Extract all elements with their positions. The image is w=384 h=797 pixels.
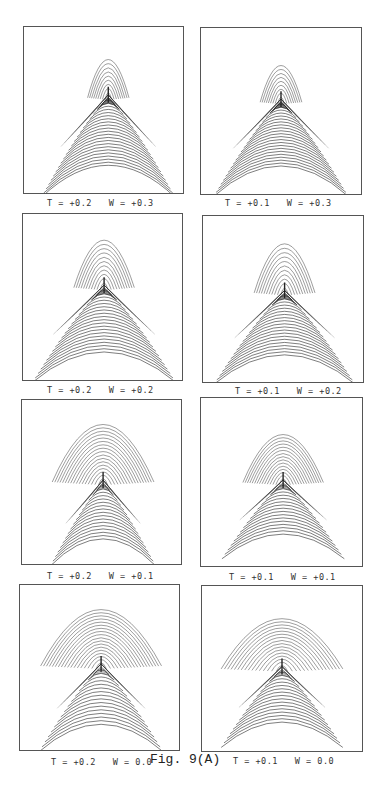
curve-family-plot [23,214,182,380]
panel-label: T = +0.2 W = +0.2 [47,385,154,395]
lower-wavefront-curve [240,515,326,533]
ray-line [66,480,103,523]
panel-label: T = +0.1 W = +0.1 [229,572,336,582]
lower-wavefront-curve [74,125,142,142]
plot-panel-6 [200,397,363,567]
lower-wavefront-curve [46,336,161,360]
figure-caption: Fig. 9(A) [150,752,220,767]
lower-wavefront-curve [58,703,145,722]
lower-wavefront-curve [55,532,151,556]
lower-wavefront-curve [41,165,175,193]
lower-wavefront-curve [44,162,173,193]
lower-wavefront-curve [268,302,302,310]
plot-panel-7 [19,584,180,751]
lower-wavefront-curve [247,128,316,144]
lower-wavefront-curve [220,349,350,376]
curve-family-plot [202,586,362,751]
lower-wavefront-curve [70,512,135,529]
ray-line [101,664,145,708]
lower-wavefront-curve [226,151,337,176]
lower-wavefront-curve [85,496,120,506]
panel-label: T = +0.2 W = 0.0 [51,757,152,767]
lower-wavefront-curve [82,499,124,510]
lower-wavefront-curve [246,321,323,337]
lower-wavefront-curve [53,536,153,562]
plot-panel-4 [202,215,364,383]
plot-panel-3 [22,213,183,381]
plot-panel-8 [201,585,363,752]
lower-wavefront-curve [261,495,304,504]
lower-wavefront-curve [83,300,126,310]
lower-wavefront-curve [90,109,127,119]
lower-wavefront-curve [221,722,343,747]
plot-panel-1 [23,26,184,194]
ray-line [57,664,101,708]
plot-panel-2 [200,27,362,195]
curve-family-plot [20,585,179,750]
lower-wavefront-curve [62,320,147,338]
ray-line [240,480,283,520]
ray-line [281,99,329,148]
ray-line [282,667,325,708]
lower-wavefront-curve [75,684,127,696]
lower-wavefront-curve [39,724,163,750]
lower-wavefront-curve [38,345,170,373]
lower-wavefront-curve [65,316,144,333]
lower-wavefront-curve [222,346,347,372]
lower-wavefront-curve [79,681,123,691]
panel-label: T = +0.1 W = +0.3 [225,198,332,208]
lower-wavefront-curve [228,339,341,363]
lower-wavefront-curve [53,150,163,176]
lower-wavefront-curve [243,324,327,342]
lower-wavefront-curve [41,342,168,369]
panel-label: T = +0.2 W = +0.3 [47,198,154,208]
lower-wavefront-curve [214,166,348,194]
ray-line [61,95,108,147]
lower-wavefront-curve [87,297,122,305]
lower-wavefront-curve [257,498,308,509]
lower-wavefront-curve [77,122,140,137]
lower-wavefront-curve [51,539,156,564]
lower-wavefront-curve [262,113,299,122]
curve-family-plot [201,28,361,194]
ray-line [283,480,326,520]
lower-wavefront-curve [61,699,142,717]
curve-family-plot [24,27,183,193]
ray-line [239,667,282,708]
curve-family-plot [203,216,363,382]
lower-wavefront-curve [243,511,323,527]
panel-label: T = +0.2 W = +0.1 [47,571,154,581]
lower-wavefront-curve [264,305,306,314]
lower-wavefront-curve [239,702,325,720]
plot-panel-5 [21,399,182,565]
lower-wavefront-curve [249,125,312,140]
lower-wavefront-curve [222,534,344,559]
curve-family-plot [22,400,181,564]
lower-wavefront-curve [231,145,332,168]
ray-line [233,99,281,148]
lower-wavefront-curve [266,110,296,118]
curve-family-plot [201,398,362,566]
lower-wavefront-curve [58,144,158,168]
lower-wavefront-curve [260,682,303,692]
lower-wavefront-curve [68,516,139,534]
lower-wavefront-curve [242,699,321,716]
lower-wavefront-curve [214,355,355,382]
ray-line [103,480,140,523]
lower-wavefront-curve [54,706,148,727]
lower-wavefront-curve [257,685,308,696]
ray-line [108,95,155,147]
panel-label: T = +0.1 W = 0.0 [233,756,334,766]
panel-label: T = +0.1 W = +0.2 [235,386,342,396]
lower-wavefront-curve [216,163,346,192]
